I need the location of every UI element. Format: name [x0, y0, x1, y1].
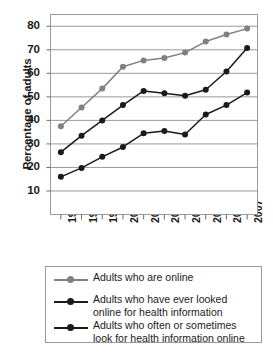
data-point-marker: [223, 68, 229, 74]
data-point-marker: [203, 112, 209, 118]
data-point-marker: [182, 50, 188, 56]
data-point-marker: [99, 86, 105, 92]
data-point-marker: [244, 90, 250, 96]
legend-label: Adults who are online: [93, 271, 193, 284]
data-point-marker: [244, 26, 250, 32]
plot-frame: [51, 15, 258, 215]
data-point-marker: [120, 64, 126, 70]
data-point-marker: [58, 149, 64, 155]
data-point-marker: [79, 104, 85, 110]
legend-label-line: Adults who often or sometimes: [93, 319, 245, 332]
legend-label-line: look for health information online: [93, 332, 245, 345]
data-point-marker: [120, 102, 126, 108]
data-point-marker: [120, 144, 126, 150]
data-point-marker: [161, 55, 167, 61]
legend-label-line: online for health information: [93, 306, 227, 319]
legend-label-line: Adults who have ever looked: [93, 293, 227, 306]
data-point-marker: [99, 154, 105, 160]
health-information-online-line-chart: Percentage of adults 1020304050607080 19…: [0, 0, 273, 355]
legend-marker-icon: [54, 273, 88, 286]
data-point-marker: [58, 174, 64, 180]
legend-marker-icon: [54, 295, 88, 308]
data-point-marker: [203, 39, 209, 45]
legend-dot-icon: [67, 324, 74, 331]
data-point-marker: [161, 90, 167, 96]
legend: Adults who are onlineAdults who have eve…: [45, 266, 262, 343]
data-point-marker: [141, 57, 147, 63]
data-point-marker: [99, 117, 105, 123]
legend-marker-icon: [54, 321, 88, 334]
data-point-marker: [203, 87, 209, 93]
legend-item[interactable]: Adults who often or sometimeslook for he…: [46, 319, 261, 345]
data-point-marker: [79, 133, 85, 139]
legend-label-line: Adults who are online: [93, 271, 193, 284]
data-point-marker: [182, 132, 188, 138]
data-point-marker: [58, 123, 64, 129]
data-point-marker: [79, 165, 85, 171]
legend-item[interactable]: Adults who have ever lookedonline for he…: [46, 293, 261, 319]
data-point-marker: [141, 88, 147, 94]
data-point-marker: [244, 45, 250, 51]
x-axis-ticks: [61, 215, 247, 220]
data-point-marker: [141, 130, 147, 136]
data-point-marker: [161, 128, 167, 134]
data-point-marker: [223, 32, 229, 38]
legend-dot-icon: [67, 276, 74, 283]
data-point-marker: [182, 93, 188, 99]
legend-label: Adults who often or sometimeslook for he…: [93, 319, 245, 345]
legend-dot-icon: [67, 298, 74, 305]
data-point-marker: [223, 102, 229, 108]
legend-label: Adults who have ever lookedonline for he…: [93, 293, 227, 319]
legend-item[interactable]: Adults who are online: [46, 271, 261, 286]
